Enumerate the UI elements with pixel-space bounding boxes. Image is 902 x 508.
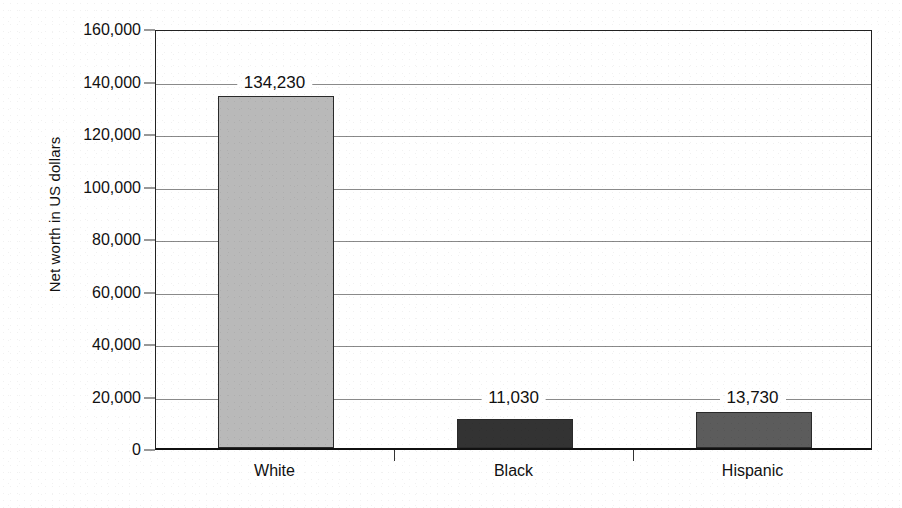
x-axis-category-label: Hispanic	[722, 462, 783, 480]
y-axis-tick-label: 160,000	[83, 21, 141, 39]
bar-chart: Net worth in US dollars 020,00040,00060,…	[0, 0, 902, 508]
y-axis-tick-label: 100,000	[83, 179, 141, 197]
bar-value-label: 11,030	[481, 389, 546, 407]
y-axis-tick-label: 120,000	[83, 126, 141, 144]
y-axis-tick-label: 140,000	[83, 74, 141, 92]
y-axis-tick-mark	[144, 345, 155, 346]
y-axis-tick-mark	[144, 292, 155, 293]
y-axis-tick-mark	[144, 187, 155, 188]
y-axis-tick-mark	[144, 450, 155, 451]
x-axis-tick-mark	[633, 450, 634, 461]
bar-value-label: 134,230	[237, 74, 312, 92]
bar	[696, 412, 812, 448]
y-axis-title: Net worth in US dollars	[46, 65, 63, 365]
bar	[457, 419, 573, 448]
y-axis-tick-label: 80,000	[92, 231, 141, 249]
y-axis-tick-mark	[144, 135, 155, 136]
y-axis-tick-label: 40,000	[92, 336, 141, 354]
bar	[218, 96, 334, 448]
y-axis-tick-label: 0	[132, 441, 141, 459]
y-axis-tick-mark	[144, 397, 155, 398]
y-axis-tick-label: 20,000	[92, 389, 141, 407]
x-axis-tick-mark	[394, 450, 395, 461]
x-axis-category-label: Black	[494, 462, 533, 480]
y-axis-tick-label: 60,000	[92, 284, 141, 302]
y-axis-tick-mark	[144, 82, 155, 83]
y-axis-tick-mark	[144, 30, 155, 31]
x-axis-category-label: White	[254, 462, 295, 480]
y-axis-tick-mark	[144, 240, 155, 241]
bar-value-label: 13,730	[720, 389, 786, 407]
